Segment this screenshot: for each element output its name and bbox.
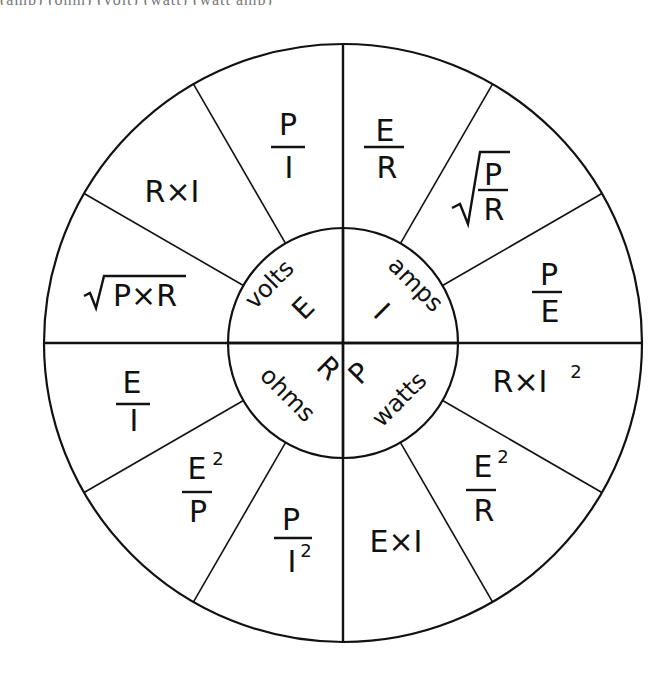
svg-text:E: E: [123, 365, 142, 400]
svg-text:I: I: [367, 297, 396, 326]
svg-text:P: P: [279, 107, 297, 142]
svg-text:2: 2: [497, 446, 508, 467]
hub-ohms: ohms R: [255, 350, 348, 428]
svg-text:2: 2: [300, 540, 311, 561]
svg-text:I: I: [285, 150, 294, 185]
svg-text:E: E: [285, 290, 321, 326]
svg-text:P: P: [484, 157, 502, 192]
formula-p-over-i: P I: [271, 107, 305, 185]
svg-text:P: P: [540, 257, 558, 292]
formula-e-times-i: E×I: [370, 524, 423, 559]
formula-e-over-r: E R: [364, 113, 404, 185]
hub-volts: volts E: [239, 254, 321, 326]
svg-text:R×I: R×I: [145, 174, 200, 209]
svg-text:P×R: P×R: [113, 278, 177, 313]
formula-r-times-i-squared: R×I 2: [493, 361, 582, 399]
svg-text:I: I: [288, 544, 297, 579]
svg-text:R×I: R×I: [493, 364, 548, 399]
svg-text:E×I: E×I: [370, 524, 423, 559]
svg-text:R: R: [484, 192, 505, 227]
svg-text:2: 2: [212, 448, 223, 469]
svg-text:P: P: [282, 502, 300, 537]
svg-text:2: 2: [570, 361, 581, 382]
formula-p-over-e: P E: [532, 257, 562, 329]
formula-e-squared-over-p: E 2 P: [182, 448, 224, 529]
formula-sqrt-p-over-r: P R: [452, 152, 510, 227]
svg-text:amps: amps: [382, 251, 448, 317]
svg-text:R: R: [377, 150, 398, 185]
svg-text:R: R: [474, 493, 495, 528]
svg-text:watts: watts: [366, 366, 432, 432]
svg-text:E: E: [474, 449, 493, 484]
formula-sqrt-p-times-r: P×R: [84, 276, 186, 313]
formula-e-squared-over-r: E 2 R: [466, 446, 509, 528]
svg-text:E: E: [188, 451, 207, 486]
svg-text:I: I: [130, 403, 139, 438]
svg-text:P: P: [342, 356, 377, 391]
formula-r-times-i: R×I: [145, 174, 200, 209]
hub-amps: amps I: [367, 251, 449, 326]
svg-text:E: E: [376, 113, 395, 148]
formula-p-over-i-squared: P I 2: [274, 502, 312, 579]
formula-e-over-i: E I: [116, 365, 150, 438]
svg-text:E: E: [541, 294, 560, 329]
hub-watts: watts P: [342, 356, 433, 433]
svg-text:P: P: [189, 494, 207, 529]
ohms-law-wheel: volts E amps I ohms R watts P E R P R P …: [0, 0, 666, 677]
